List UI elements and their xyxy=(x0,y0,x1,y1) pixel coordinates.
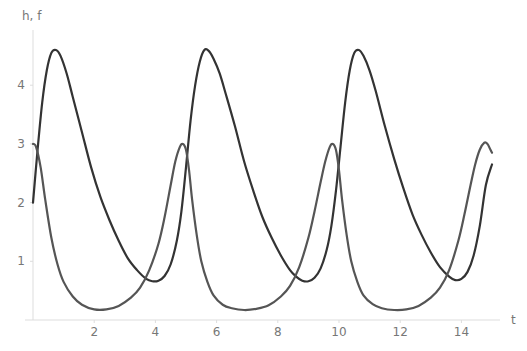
y-ticks: 1234 xyxy=(17,78,33,268)
x-axis-label: t xyxy=(511,313,516,327)
y-tick-label: 1 xyxy=(17,254,25,268)
x-axis: t 2468101214 xyxy=(25,313,516,339)
x-ticks: 2468101214 xyxy=(90,320,469,339)
series-line-f xyxy=(33,142,492,310)
x-tick-label: 12 xyxy=(393,325,408,339)
chart: h, f 1234 t 2468101214 xyxy=(0,0,527,351)
plot-area xyxy=(33,49,492,310)
x-tick-label: 14 xyxy=(454,325,469,339)
y-axis-label: h, f xyxy=(22,9,42,23)
y-tick-label: 3 xyxy=(17,137,25,151)
x-tick-label: 10 xyxy=(331,325,346,339)
y-tick-label: 4 xyxy=(17,78,25,92)
x-tick-label: 6 xyxy=(213,325,221,339)
y-axis: h, f 1234 xyxy=(17,9,42,320)
x-tick-label: 4 xyxy=(152,325,160,339)
series-line-h xyxy=(33,49,492,281)
x-tick-label: 8 xyxy=(274,325,282,339)
y-tick-label: 2 xyxy=(17,196,25,210)
x-tick-label: 2 xyxy=(90,325,98,339)
